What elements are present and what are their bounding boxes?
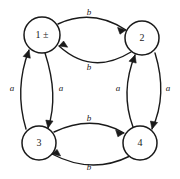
- edge-path-2-to-4: [152, 53, 161, 129]
- edge-1-to-3: [45, 53, 53, 128]
- edge-label-3-to-1: a: [10, 83, 15, 93]
- edge-4-to-2: [127, 55, 136, 127]
- edge-label-3-to-4: b: [87, 113, 92, 123]
- arrowhead-into-1-left: [23, 50, 30, 58]
- edge-3-to-1: [21, 50, 31, 129]
- arrowhead-into-3-top: [46, 120, 53, 128]
- arrowhead-into-2-bottom: [129, 55, 136, 63]
- node-2-label: 2: [140, 32, 145, 43]
- edge-path-1-to-2: [58, 17, 126, 30]
- edge-label-4-to-3: b: [87, 162, 92, 172]
- graph-canvas: b b a a a a b b 1 ± 2 3 4: [0, 0, 180, 179]
- edge-2-to-1: [59, 41, 131, 63]
- edge-label-2-to-4: a: [166, 83, 171, 93]
- edge-path-4-to-2: [127, 55, 135, 127]
- edge-label-1-to-3: a: [59, 83, 64, 93]
- edge-3-to-4: [54, 123, 124, 137]
- edge-path-3-to-1: [21, 50, 29, 129]
- edge-path-2-to-1: [59, 46, 131, 63]
- edge-path-1-to-3: [45, 53, 53, 128]
- edge-path-3-to-4: [54, 123, 124, 133]
- node-3[interactable]: 3: [22, 126, 56, 160]
- node-1[interactable]: 1 ±: [24, 17, 60, 53]
- node-1-label: 1 ±: [36, 29, 50, 40]
- arrowhead-into-1-top: [59, 41, 68, 47]
- node-4-label: 4: [138, 137, 143, 148]
- edge-2-to-4: [150, 53, 160, 129]
- node-4[interactable]: 4: [123, 126, 157, 160]
- edge-label-1-to-2: b: [87, 7, 92, 17]
- node-2[interactable]: 2: [125, 21, 159, 55]
- edge-1-to-2: [58, 17, 126, 34]
- node-3-label: 3: [37, 137, 42, 148]
- state-diagram-figure: b b a a a a b b 1 ± 2 3 4: [0, 0, 180, 179]
- edge-label-2-to-1: b: [87, 62, 92, 72]
- arrowhead-into-4-right: [150, 121, 157, 129]
- edge-label-4-to-2: a: [116, 83, 121, 93]
